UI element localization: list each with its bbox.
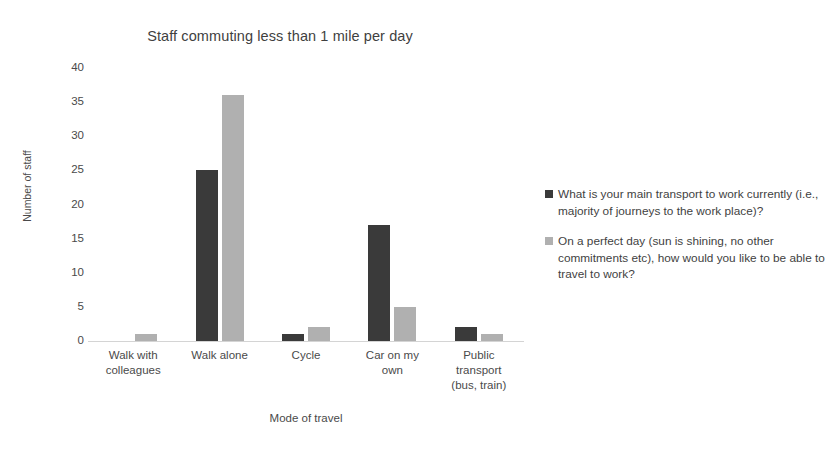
legend-swatch-icon [545,237,553,245]
y-axis-tick: 0 [48,335,84,347]
x-axis-tick: Cycle [258,348,354,363]
y-axis-tick: 25 [48,164,84,176]
bar [481,334,503,341]
bar-chart: Staff commuting less than 1 mile per day… [0,0,835,454]
bar [368,225,390,341]
legend-label: On a perfect day (sun is shining, no oth… [558,233,830,283]
x-axis-tick-line: Walk alone [172,348,268,363]
legend-item[interactable]: What is your main transport to work curr… [545,186,830,219]
y-axis-tick: 30 [48,130,84,142]
legend-swatch-icon [545,190,553,198]
x-axis-tick-line: own [344,363,440,378]
x-axis-tick: Car on myown [344,348,440,378]
legend-label: What is your main transport to work curr… [558,186,830,219]
bar-group [263,68,349,341]
bar-group [90,68,176,341]
bar-group [176,68,262,341]
bar [308,327,330,341]
x-axis-tick-line: Walk with [85,348,181,363]
bar [222,95,244,341]
x-axis-tick-line: Car on my [344,348,440,363]
y-axis-tick: 35 [48,96,84,108]
y-axis-tick: 40 [48,62,84,74]
x-axis-tick-line: Public [431,348,527,363]
x-axis-label: Mode of travel [90,412,522,424]
chart-title: Staff commuting less than 1 mile per day [0,28,560,44]
bar [135,334,157,341]
bar-group [349,68,435,341]
x-axis-tick-line: (bus, train) [431,378,527,393]
bar [455,327,477,341]
bar [394,307,416,341]
y-axis-tick: 15 [48,233,84,245]
bar-group [436,68,522,341]
x-axis-tick-line: colleagues [85,363,181,378]
y-axis-tick: 20 [48,199,84,211]
bar [196,170,218,341]
x-axis-tick-line: Cycle [258,348,354,363]
chart-legend: What is your main transport to work curr… [545,186,830,297]
x-axis-baseline [88,341,524,342]
y-axis-label: Number of staff [21,126,33,246]
y-axis-tick: 5 [48,301,84,313]
bar [282,334,304,341]
legend-item[interactable]: On a perfect day (sun is shining, no oth… [545,233,830,283]
x-axis-tick: Walk alone [172,348,268,363]
y-axis-tick: 10 [48,267,84,279]
x-axis-tick: Walk withcolleagues [85,348,181,378]
plot-area [90,68,522,341]
x-axis-tick-line: transport [431,363,527,378]
x-axis-tick: Publictransport(bus, train) [431,348,527,393]
